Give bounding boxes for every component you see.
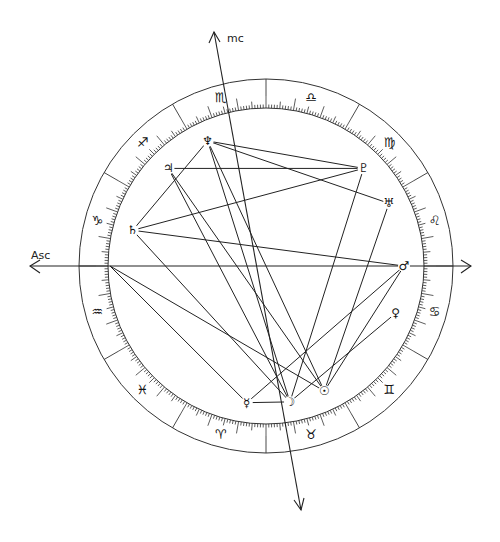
sign-divider: [351, 104, 360, 119]
degree-tick: [389, 164, 392, 166]
sign-sagittarius-icon: ♐: [137, 135, 149, 150]
degree-tick: [232, 108, 233, 111]
degree-tick: [136, 157, 145, 165]
degree-tick: [146, 372, 149, 374]
degree-tick: [368, 387, 376, 396]
degree-tick: [132, 354, 135, 356]
degree-tick: [380, 154, 383, 156]
degree-tick: [338, 122, 340, 125]
degree-tick: [323, 115, 324, 118]
degree-tick: [406, 340, 409, 342]
degree-tick: [106, 241, 109, 242]
degree-tick: [347, 128, 349, 131]
planet-mercury-icon: ☿: [243, 396, 250, 410]
degree-tick: [132, 176, 135, 178]
degree-tick: [154, 380, 156, 383]
planet-moon-icon: ☽: [285, 395, 296, 409]
degree-tick: [291, 106, 292, 109]
degree-tick: [131, 178, 134, 180]
degree-tick: [171, 394, 173, 397]
degree-tick: [160, 144, 162, 147]
degree-tick: [169, 137, 171, 140]
degree-tick: [116, 196, 122, 199]
degree-tick: [419, 304, 422, 305]
sign-leo-icon: ♌: [429, 213, 441, 228]
degree-tick: [391, 167, 394, 169]
degree-tick: [150, 376, 153, 378]
degree-tick: [383, 372, 386, 374]
aspect-line-saturn-mars: [133, 230, 404, 266]
sign-virgo-icon: ♍: [384, 135, 396, 150]
degree-tick: [107, 223, 114, 225]
degree-tick: [102, 280, 109, 281]
degree-tick: [333, 116, 336, 122]
planet-sun-icon: ☉: [319, 384, 330, 398]
degree-tick: [193, 407, 195, 410]
mc-ic-axis: [214, 32, 301, 510]
degree-tick: [372, 383, 374, 386]
degree-tick: [167, 139, 169, 142]
degree-tick: [107, 296, 110, 297]
natal-chart: ♈♉♊♋♌♍♎♏♐♑♒♓ Asc mc ♆♃♄♇♅♂♀☽☿☉: [0, 0, 500, 542]
degree-tick: [291, 422, 292, 425]
degree-tick: [99, 293, 111, 295]
degree-tick: [328, 117, 329, 120]
degree-tick: [196, 116, 199, 122]
degree-tick: [232, 421, 233, 424]
degree-tick: [417, 219, 420, 220]
degree-tick: [144, 370, 147, 372]
degree-tick: [180, 129, 182, 132]
degree-tick: [188, 125, 190, 128]
degree-tick: [403, 345, 413, 351]
degree-tick: [347, 401, 349, 404]
degree-tick: [150, 154, 153, 156]
degree-tick: [176, 397, 178, 400]
degree-tick: [376, 380, 378, 383]
degree-tick: [122, 193, 125, 195]
degree-tick: [252, 102, 253, 109]
sign-gemini-icon: ♊: [384, 382, 396, 397]
degree-tick: [302, 109, 303, 112]
degree-tick: [164, 140, 166, 143]
degree-tick: [312, 417, 313, 420]
degree-tick: [136, 368, 145, 376]
degree-tick: [116, 206, 119, 207]
degree-tick: [310, 418, 311, 421]
degree-tick: [129, 350, 132, 352]
degree-tick: [190, 406, 192, 409]
degree-tick: [317, 415, 318, 418]
degree-tick: [382, 374, 385, 376]
degree-tick: [328, 411, 329, 414]
degree-tick: [380, 376, 383, 378]
degree-tick: [307, 419, 309, 426]
aspect-lines: [110, 141, 404, 403]
degree-tick: [399, 178, 402, 180]
degree-tick: [357, 131, 361, 137]
degree-tick: [345, 403, 351, 413]
degree-tick: [156, 148, 158, 151]
degree-tick: [108, 232, 111, 233]
degree-tick: [391, 363, 394, 365]
degree-tick: [236, 422, 238, 434]
degree-tick: [307, 107, 309, 114]
degree-tick: [357, 395, 361, 401]
degree-tick: [193, 122, 195, 125]
degree-tick: [409, 333, 415, 336]
aspect-line-neptune-pluto: [208, 141, 364, 168]
degree-tick: [157, 136, 165, 145]
aspect-line-pluto-moon: [290, 168, 364, 401]
degree-tick: [111, 221, 114, 222]
degree-tick: [385, 370, 388, 372]
degree-tick: [400, 180, 403, 182]
sign-taurus-icon: ♉: [305, 427, 317, 442]
degree-tick: [154, 150, 156, 153]
degree-tick: [171, 135, 173, 138]
degree-tick: [406, 190, 409, 192]
degree-tick: [419, 307, 426, 309]
degree-tick: [423, 280, 430, 281]
degree-tick: [395, 171, 401, 175]
degree-tick: [335, 408, 337, 411]
aspect-line-jupiter-sun: [168, 168, 324, 391]
degree-tick: [112, 315, 115, 316]
degree-tick: [113, 213, 116, 214]
